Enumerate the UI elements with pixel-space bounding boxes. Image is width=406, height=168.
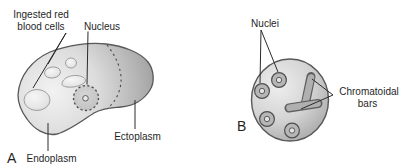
chromatoidal-bar-horizontal [289,104,318,109]
karyosome [83,96,89,102]
chromatoidal-bar-vertical [306,77,312,104]
rbc-large [24,90,50,111]
cyst-nucleus-2 [272,73,287,88]
label-ingested-rbc-line1: Ingested red [13,9,69,20]
panel-a-trophozoite: Ingested red blood cells Nucleus Ectopla… [7,9,161,166]
cyst-nucleus-3 [260,112,275,127]
label-nucleus: Nucleus [84,21,120,32]
label-ingested-rbc-line2: blood cells [17,21,64,32]
label-endoplasm: Endoplasm [26,153,76,164]
label-nuclei: Nuclei [251,18,279,29]
panel-a-letter: A [7,150,17,166]
figure-canvas: Ingested red blood cells Nucleus Ectopla… [0,0,406,168]
amoeba-diagram: Ingested red blood cells Nucleus Ectopla… [0,0,406,168]
cyst-nucleus-1 [255,84,270,99]
rbc-round [66,58,77,68]
panel-b-letter: B [237,118,246,134]
cyst-nucleus-4 [285,123,300,138]
panel-b-cyst: Nuclei Chromatoidal bars B [237,18,399,141]
label-chromatoidal-line2: bars [358,98,377,109]
label-ectoplasm: Ectoplasm [114,131,161,142]
label-chromatoidal-line1: Chromatoidal [339,86,398,97]
